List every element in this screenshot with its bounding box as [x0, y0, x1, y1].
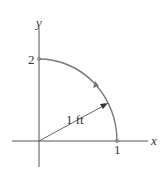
- x-tick-label: 1: [114, 142, 121, 157]
- quarter-circle-diagram: y x 2 1 1 ft: [0, 0, 166, 174]
- quarter-curve: [39, 59, 117, 141]
- radius-label: 1 ft: [66, 112, 84, 127]
- x-axis-label: x: [150, 133, 157, 148]
- y-tick-label: 2: [28, 52, 35, 67]
- y-axis-label: y: [34, 15, 42, 30]
- radius-arrowhead-icon: [100, 103, 108, 109]
